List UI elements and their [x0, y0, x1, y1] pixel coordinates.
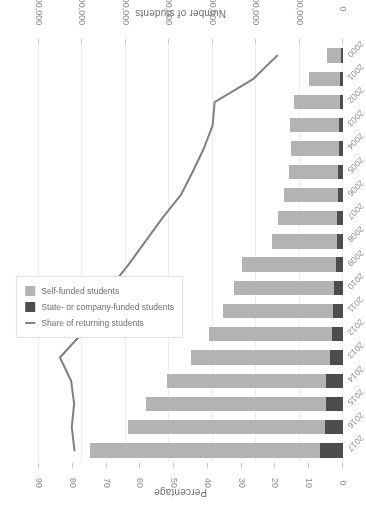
students-tick-label: 300,000 [208, 0, 218, 29]
students-tick-label: 200,000 [251, 0, 261, 29]
legend-swatch-icon [25, 286, 35, 296]
category-label: 2004 [345, 132, 365, 152]
category-label: 2003 [345, 108, 365, 128]
category-label: 2014 [345, 364, 365, 384]
category-label: 2013 [345, 341, 365, 361]
percentage-tick-label: 50 [169, 463, 179, 503]
legend-item[interactable]: Self-funded students [25, 283, 174, 299]
students-axis-title: Number of students [0, 8, 361, 19]
legend-item-label: Share of returning students [41, 318, 144, 328]
category-label: 2009 [345, 248, 365, 268]
category-label: 2007 [345, 201, 365, 221]
legend-item-label: State- or company-funded students [41, 302, 174, 312]
students-tick-label: 600,000 [77, 0, 87, 29]
category-label: 2010 [345, 271, 365, 291]
category-label: 2000 [345, 39, 365, 59]
category-label: 2015 [345, 387, 365, 407]
students-tick-label: 100,000 [295, 0, 305, 29]
legend-line-icon [25, 322, 35, 324]
returning-share-line [39, 44, 343, 462]
category-label: 2016 [345, 410, 365, 430]
percentage-tick-label: 40 [203, 463, 213, 503]
students-tick-label: 400,000 [164, 0, 174, 29]
chart-legend: Self-funded studentsState- or company-fu… [16, 276, 183, 338]
percentage-tick-label: 90 [34, 463, 44, 503]
percentage-tick-label: 0 [338, 463, 348, 503]
legend-swatch-icon [25, 302, 35, 312]
percentage-tick-label: 30 [237, 463, 247, 503]
category-label: 2005 [345, 155, 365, 175]
percentage-tick-label: 70 [102, 463, 112, 503]
category-label: 2012 [345, 317, 365, 337]
category-label: 2008 [345, 224, 365, 244]
legend-item[interactable]: Share of returning students [25, 315, 174, 331]
legend-item-label: Self-funded students [41, 286, 119, 296]
students-tick-label: 0 [338, 0, 348, 29]
line-path [60, 56, 277, 451]
percentage-tick-label: 60 [135, 463, 145, 503]
category-label: 2002 [345, 85, 365, 105]
category-label: 2001 [345, 62, 365, 82]
percentage-tick-label: 10 [304, 463, 314, 503]
category-label: 2011 [345, 295, 365, 315]
percentage-tick-label: 80 [68, 463, 78, 503]
category-label: 2017 [345, 433, 365, 453]
percentage-tick-label: 20 [270, 463, 280, 503]
legend-item[interactable]: State- or company-funded students [25, 299, 174, 315]
plot-area: 0102030405060708090 0100,000200,000300,0… [39, 44, 343, 462]
students-tick-label: 700,000 [34, 0, 44, 29]
students-tick-label: 500,000 [121, 0, 131, 29]
category-label: 2006 [345, 178, 365, 198]
